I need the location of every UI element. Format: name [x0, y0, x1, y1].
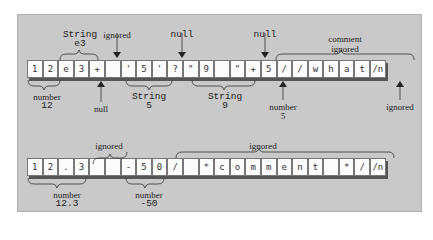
- token-cell: .: [58, 158, 74, 176]
- token-cell: [105, 158, 121, 176]
- token-cell: /: [167, 158, 183, 176]
- token-cell: *: [339, 158, 355, 176]
- token-cell: w: [308, 60, 324, 78]
- token-cell: 5: [136, 60, 152, 78]
- token-cell: 1: [27, 158, 43, 176]
- token-cell: m: [261, 158, 277, 176]
- label-null-plus: null: [245, 30, 285, 40]
- label-ignored-newline: ignored: [380, 102, 420, 112]
- token-cell: m: [245, 158, 261, 176]
- token-cell: 0: [152, 158, 168, 176]
- token-cell: +: [245, 60, 261, 78]
- label-ignored-space: ignored: [97, 30, 137, 40]
- label-ignored-comment: ignored: [243, 141, 283, 151]
- token-cell: 2: [43, 60, 59, 78]
- label-string-9-value: 9: [205, 101, 245, 111]
- token-cell: 5: [261, 60, 277, 78]
- token-cell: ': [121, 60, 137, 78]
- token-cell: [105, 60, 121, 78]
- token-cell: *: [199, 158, 215, 176]
- token-cell: a: [339, 60, 355, 78]
- token-cell: -: [121, 158, 137, 176]
- token-cell: 5: [136, 158, 152, 176]
- label-ignored-spaces: ignored: [89, 141, 129, 151]
- token-cell: /: [292, 60, 308, 78]
- label-null-plus-1: null: [81, 104, 121, 114]
- token-cell: t: [354, 60, 370, 78]
- label-string-e3-value: e3: [60, 39, 100, 49]
- token-cell: e: [58, 60, 74, 78]
- token-cell: n: [292, 158, 308, 176]
- token-cell: 3: [74, 60, 90, 78]
- token-cell: [89, 158, 105, 176]
- token-cell: /: [277, 60, 293, 78]
- label-comment-value: ignored: [320, 44, 370, 54]
- label-number-50-value: -50: [129, 199, 169, 209]
- token-cell: 9: [199, 60, 215, 78]
- token-cell: h: [323, 60, 339, 78]
- label-number-12-3-value: 12.3: [47, 199, 87, 209]
- token-cell: ": [230, 60, 246, 78]
- token-cell: ': [152, 60, 168, 78]
- label-comment-type: comment: [320, 34, 370, 44]
- token-cell: ?: [167, 60, 183, 78]
- token-row-1: 12e3+ '5'?"9 "+5//what/n: [27, 60, 386, 78]
- token-cell: /n: [370, 158, 386, 176]
- label-string-5-value: 5: [129, 101, 169, 111]
- token-cell: +: [89, 60, 105, 78]
- token-cell: [214, 60, 230, 78]
- token-cell: o: [230, 158, 246, 176]
- token-cell: [183, 158, 199, 176]
- token-cell: e: [277, 158, 293, 176]
- token-cell: 3: [74, 158, 90, 176]
- token-cell: [323, 158, 339, 176]
- token-cell: ": [183, 60, 199, 78]
- token-cell: t: [308, 158, 324, 176]
- label-number-5-value: 5: [263, 111, 303, 121]
- token-cell: 2: [43, 158, 59, 176]
- token-cell: c: [214, 158, 230, 176]
- token-cell: /: [354, 158, 370, 176]
- token-cell: /n: [370, 60, 386, 78]
- label-null-question: null: [162, 30, 202, 40]
- label-number-12-value: 12: [27, 101, 67, 111]
- token-cell: 1: [27, 60, 43, 78]
- token-row-2: 12.3 -50/ *comment *//n: [27, 158, 386, 176]
